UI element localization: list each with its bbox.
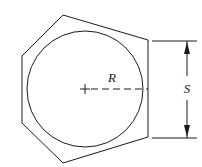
technical-drawing: R S	[0, 0, 202, 167]
radius-label: R	[107, 70, 116, 85]
across-flats-label: S	[184, 81, 191, 96]
arrowhead-up-icon	[184, 42, 190, 54]
arrowhead-down-icon	[184, 125, 190, 137]
drawing-canvas: R S	[0, 0, 202, 167]
